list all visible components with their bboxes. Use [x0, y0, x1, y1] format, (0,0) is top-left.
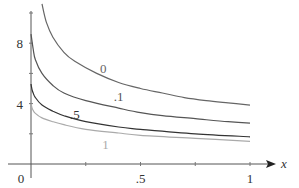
x-tick-label: 0 [18, 171, 25, 186]
series-labels: 0.1.51 [70, 61, 124, 151]
series-line-2 [31, 34, 250, 123]
series-line-3 [31, 84, 250, 137]
series-label: 0 [100, 61, 107, 76]
x-tick-label: .5 [136, 171, 146, 186]
series-label: .1 [114, 89, 124, 104]
chart: x 0.51 48 0.1.51 [0, 0, 299, 188]
series-label: 1 [102, 137, 109, 152]
y-tick-label: 4 [17, 97, 24, 112]
x-ticks: 0.51 [18, 162, 254, 186]
x-axis-label: x [280, 156, 287, 171]
series-line-1 [42, 4, 250, 105]
series-curves [31, 4, 250, 141]
axes: x [8, 11, 287, 178]
x-tick-label: 1 [247, 171, 254, 186]
y-tick-label: 8 [17, 36, 24, 51]
series-label: .5 [70, 107, 80, 122]
